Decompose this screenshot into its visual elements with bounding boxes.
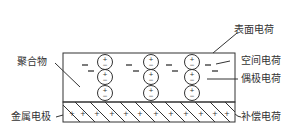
label-surface-charge: 表面电荷: [234, 24, 274, 36]
svg-text:−: −: [102, 76, 107, 83]
svg-text:+: +: [109, 110, 115, 118]
svg-text:+: +: [212, 110, 218, 118]
svg-text:−: −: [102, 61, 107, 68]
label-space-charge: 空间电荷: [241, 55, 281, 67]
svg-text:−: −: [102, 92, 107, 99]
svg-text:+: +: [224, 110, 230, 118]
leader-space-charge: [216, 61, 230, 64]
svg-text:−: −: [148, 92, 153, 99]
svg-text:+: +: [153, 110, 159, 118]
label-compensation-charge: 补偿电荷: [241, 111, 281, 123]
svg-text:−: −: [148, 61, 153, 68]
svg-text:+: +: [198, 110, 204, 118]
leader-metal: [56, 115, 63, 117]
svg-text:+: +: [94, 110, 100, 118]
svg-text:−: −: [189, 92, 194, 99]
dipole-signs: +− +− +− +− +− +− +− +− +−: [102, 55, 194, 99]
label-polymer: 聚合物: [17, 56, 47, 68]
metal-electrode: [63, 102, 235, 122]
svg-text:+: +: [123, 110, 129, 118]
svg-text:+: +: [168, 110, 174, 118]
svg-text:−: −: [189, 61, 194, 68]
label-dipole-charge: 偶极电荷: [241, 73, 281, 85]
svg-text:+: +: [137, 110, 143, 118]
leader-polymer: [55, 63, 80, 87]
svg-text:−: −: [189, 76, 194, 83]
svg-text:+: +: [183, 110, 189, 118]
svg-text:−: −: [148, 76, 153, 83]
leader-surface-charge: [213, 33, 237, 53]
label-metal-electrode: 金属电极: [11, 111, 51, 123]
svg-text:+: +: [69, 110, 75, 118]
svg-text:+: +: [80, 110, 86, 118]
